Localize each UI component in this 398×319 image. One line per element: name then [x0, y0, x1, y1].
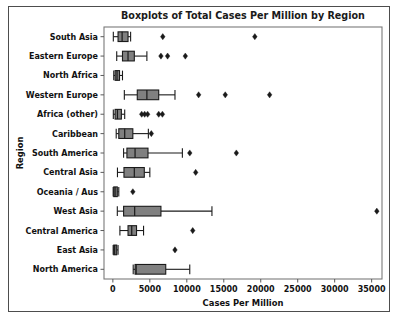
x-tick-label-25000: 25000: [284, 285, 312, 294]
box: [124, 206, 161, 216]
boxplot-group-africa-other: [113, 109, 164, 119]
boxplot-group-caribbean: [116, 129, 153, 139]
figure-frame: Boxplots of Total Cases Per Million by R…: [8, 6, 390, 312]
box: [127, 148, 148, 158]
y-tick-label-central-america: Central America: [26, 227, 98, 236]
box: [137, 90, 158, 100]
boxplot-group-central-asia: [117, 168, 198, 178]
outlier-point-0: [193, 169, 198, 175]
x-tick-label-10000: 10000: [173, 285, 201, 294]
boxplot-group-north-africa: [114, 71, 123, 81]
box: [135, 264, 166, 274]
x-tick-label-30000: 30000: [321, 285, 349, 294]
y-tick-label-east-asia: East Asia: [57, 246, 98, 255]
outlier-point-2: [145, 111, 150, 117]
boxplot-group-central-america: [120, 226, 195, 236]
outlier-point-1: [234, 150, 239, 156]
box: [118, 32, 128, 42]
boxplot-group-oceania-aus: [113, 187, 135, 197]
x-tick-label-0: 0: [110, 285, 116, 294]
outlier-point-0: [149, 131, 154, 137]
y-tick-label-south-america: South America: [32, 149, 98, 158]
boxplot-group-west-asia: [117, 206, 379, 216]
outlier-point-0: [375, 208, 380, 214]
boxplot-group-south-america: [124, 148, 239, 158]
y-tick-label-north-africa: North Africa: [43, 71, 98, 80]
y-tick-label-eastern-europe: Eastern Europe: [29, 52, 99, 61]
y-tick-label-west-asia: West Asia: [54, 207, 98, 216]
boxplot-group-western-europe: [124, 90, 272, 100]
boxplot-group-east-asia: [113, 245, 177, 255]
x-tick-label-35000: 35000: [358, 285, 386, 294]
y-axis-label: Region: [15, 137, 25, 170]
y-tick-label-caribbean: Caribbean: [52, 130, 98, 139]
boxplot-group-north-america: [133, 264, 190, 274]
chart-title: Boxplots of Total Cases Per Million by R…: [121, 10, 365, 21]
y-tick-label-central-asia: Central Asia: [43, 168, 98, 177]
outlier-point-0: [173, 247, 178, 253]
outlier-point-0: [131, 189, 136, 195]
outlier-point-2: [267, 92, 272, 98]
boxplot-group-south-asia: [113, 32, 257, 42]
outlier-point-0: [159, 53, 164, 59]
boxplot-group-eastern-europe: [117, 51, 188, 61]
outlier-point-0: [187, 150, 192, 156]
x-tick-label-20000: 20000: [247, 285, 275, 294]
outlier-point-0: [196, 92, 201, 98]
outlier-point-1: [253, 34, 258, 40]
y-tick-label-oceania-aus: Oceania / Aus: [37, 188, 99, 197]
y-tick-label-north-america: North America: [33, 265, 98, 274]
box: [119, 129, 133, 139]
x-tick-label-5000: 5000: [139, 285, 162, 294]
y-tick-label-western-europe: Western Europe: [26, 91, 99, 100]
x-tick-label-15000: 15000: [210, 285, 238, 294]
y-tick-label-africa-other: Africa (other): [37, 110, 98, 119]
outlier-point-0: [160, 34, 165, 40]
outlier-point-1: [165, 53, 170, 59]
boxplot-svg: Boxplots of Total Cases Per Million by R…: [9, 7, 389, 311]
chart-figure: Boxplots of Total Cases Per Million by R…: [0, 0, 398, 319]
box: [115, 109, 121, 119]
outlier-point-2: [183, 53, 188, 59]
outlier-point-4: [160, 111, 165, 117]
outlier-point-0: [190, 227, 195, 233]
y-tick-label-south-asia: South Asia: [50, 33, 98, 42]
x-axis-label: Cases Per Million: [203, 298, 284, 308]
outlier-point-1: [223, 92, 228, 98]
